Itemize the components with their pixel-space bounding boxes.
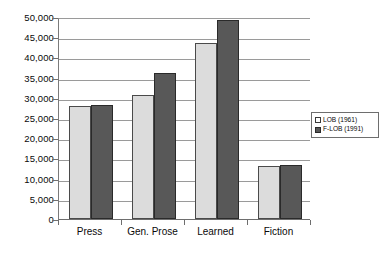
y-axis-tick-label: 20,000 xyxy=(0,134,54,144)
bar-fiction-flob xyxy=(280,165,302,219)
legend-label: F-LOB (1991) xyxy=(323,126,363,133)
legend-label: LOB (1961) xyxy=(323,117,357,124)
x-axis-category-label: Fiction xyxy=(234,227,324,237)
y-axis-tick-label: 40,000 xyxy=(0,53,54,63)
y-axis-tick-label: 35,000 xyxy=(0,74,54,84)
legend-swatch-icon xyxy=(315,127,321,133)
legend-swatch-icon xyxy=(315,117,321,123)
y-axis-tick-label: 45,000 xyxy=(0,33,54,43)
x-axis-tick-mark xyxy=(310,220,311,225)
legend: LOB (1961)F-LOB (1991) xyxy=(311,112,379,138)
x-axis-tick-mark xyxy=(58,220,59,225)
x-axis-tick-mark xyxy=(184,220,185,225)
bar-gen-prose-flob xyxy=(154,73,176,219)
y-axis-tick-label: 50,000 xyxy=(0,13,54,23)
y-axis-tick-label: 25,000 xyxy=(0,114,54,124)
y-axis-tick-label: 15,000 xyxy=(0,154,54,164)
bar-press-flob xyxy=(91,105,113,219)
y-axis-tick-label: 0 xyxy=(0,215,54,225)
bar-learned-lob xyxy=(195,43,217,219)
legend-item: LOB (1961) xyxy=(315,116,376,125)
y-axis-tick-label: 5,000 xyxy=(0,195,54,205)
bar-chart: 05,00010,00015,00020,00025,00030,00035,0… xyxy=(0,0,382,256)
bar-fiction-lob xyxy=(258,166,280,219)
y-axis-tick-label: 30,000 xyxy=(0,94,54,104)
bar-press-lob xyxy=(69,106,91,219)
gridline xyxy=(59,80,310,81)
gridline xyxy=(59,59,310,60)
plot-area xyxy=(58,18,310,220)
x-axis-tick-mark xyxy=(247,220,248,225)
legend-item: F-LOB (1991) xyxy=(315,125,376,134)
x-axis-tick-mark xyxy=(121,220,122,225)
gridline xyxy=(59,39,310,40)
bar-learned-flob xyxy=(217,20,239,219)
gridline xyxy=(59,100,310,101)
bar-gen-prose-lob xyxy=(132,95,154,219)
y-axis-tick-label: 10,000 xyxy=(0,175,54,185)
